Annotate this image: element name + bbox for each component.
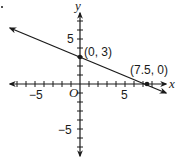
x-axis-label: x	[168, 76, 175, 91]
point-label-x-intercept: (7.5, 0)	[130, 63, 168, 77]
graph-line	[10, 28, 166, 93]
point-x-intercept	[145, 82, 150, 87]
point-y-intercept	[78, 55, 83, 60]
y-axis-label: y	[73, 0, 81, 13]
origin-label: O	[69, 85, 79, 100]
y-tick-label-neg5: −5	[58, 123, 72, 137]
point-label-y-intercept: (0, 3)	[84, 45, 112, 59]
y-tick-label-pos5: 5	[67, 32, 74, 46]
x-tick-label-neg5: −5	[29, 88, 43, 102]
x-tick-label-pos5: 5	[121, 88, 128, 102]
coordinate-plane: y x O −5 5 5 −5 (0, 3) (7.5, 0)	[0, 0, 178, 160]
bullet-dot	[1, 6, 3, 8]
